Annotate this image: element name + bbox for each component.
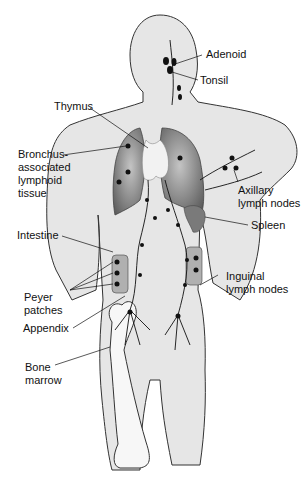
label-bronchus-associated-lymphoid-tissue: Bronchus- associated lymphoid tissue (18, 148, 71, 200)
label-intestine: Intestine (17, 229, 59, 242)
label-appendix: Appendix (23, 322, 69, 335)
label-bone-marrow: Bone marrow (25, 361, 62, 387)
label-spleen: Spleen (251, 219, 285, 232)
label-tonsil: Tonsil (200, 74, 228, 87)
intestine-right (186, 247, 202, 285)
body-outline (47, 15, 297, 470)
label-adenoid: Adenoid (206, 48, 246, 61)
label-axillary-lymph-nodes: Axillary lymph nodes (238, 184, 300, 210)
label-inguinal-lymph-nodes: Inguinal lymph nodes (226, 270, 288, 296)
label-thymus: Thymus (54, 100, 93, 113)
intestine-left (112, 255, 128, 293)
label-peyer-patches: Peyer patches (24, 291, 63, 317)
thymus-gland (142, 140, 168, 180)
